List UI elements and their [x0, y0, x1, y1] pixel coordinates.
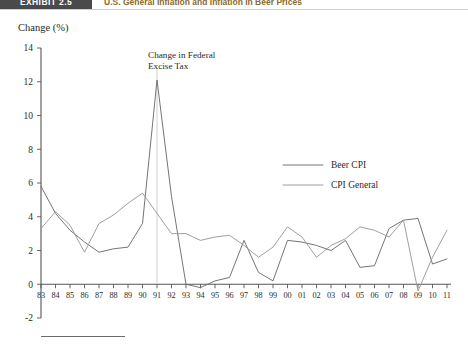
legend-label-cpi-general: CPI General [331, 180, 379, 190]
x-tick-label: 84 [51, 291, 59, 300]
x-tick-label: 90 [138, 291, 146, 300]
x-tick-label: 04 [341, 291, 349, 300]
x-tick-label: 86 [80, 291, 88, 300]
exhibit-number-tag: EXHIBIT 2.5 [0, 0, 92, 9]
chart-container: Change (%) 14121086420-2 838485868788899… [0, 10, 468, 340]
exhibit-title: U.S. General Inflation and Inflation in … [104, 0, 302, 9]
y-tick-label: 0 [28, 280, 33, 290]
series-line-cpi-general [41, 193, 447, 291]
x-tick-label: 01 [298, 291, 306, 300]
y-tick-label: 6 [28, 178, 33, 188]
x-tick-label: 88 [109, 291, 117, 300]
legend-label-beer-cpi: Beer CPI [331, 160, 366, 170]
x-tick-label: 85 [66, 291, 74, 300]
annotation-line-1: Change in Federal [148, 50, 216, 60]
x-tick-label: 00 [283, 291, 291, 300]
x-axis-ticks: 8384858687888990919293949596979899000102… [37, 284, 451, 300]
x-tick-label: 92 [167, 291, 175, 300]
series-line-beer-cpi [41, 80, 447, 288]
y-tick-label: 4 [28, 212, 33, 222]
y-tick-label: 8 [28, 145, 33, 155]
x-tick-label: 02 [312, 291, 320, 300]
x-tick-label: 98 [254, 291, 262, 300]
x-tick-label: 06 [370, 291, 378, 300]
y-tick-label: 10 [24, 111, 34, 121]
x-tick-label: 05 [356, 291, 364, 300]
x-tick-label: 91 [153, 291, 161, 300]
x-tick-label: 94 [196, 291, 204, 300]
series-group [41, 80, 447, 291]
exhibit-header-bar: EXHIBIT 2.5 U.S. General Inflation and I… [0, 0, 468, 9]
x-tick-label: 08 [399, 291, 407, 300]
annotation-line-2: Excise Tax [148, 61, 189, 71]
chart-legend: Beer CPICPI General [283, 160, 379, 190]
footnote-divider [41, 336, 125, 337]
x-tick-label: 96 [225, 291, 233, 300]
x-tick-label: 09 [414, 291, 422, 300]
y-tick-label: 2 [28, 246, 33, 256]
y-tick-label: 14 [24, 43, 34, 53]
x-tick-label: 99 [269, 291, 277, 300]
x-tick-label: 97 [240, 291, 248, 300]
x-tick-label: 07 [385, 291, 393, 300]
y-tick-label: 12 [24, 77, 34, 87]
x-tick-label: 93 [182, 291, 190, 300]
x-tick-label: 87 [95, 291, 103, 300]
x-tick-label: 89 [124, 291, 132, 300]
line-chart-plot: 14121086420-2 83848586878889909192939495… [0, 10, 468, 340]
x-tick-label: 10 [428, 291, 436, 300]
y-tick-label: -2 [25, 313, 33, 323]
x-tick-label: 11 [443, 291, 451, 300]
x-tick-label: 95 [211, 291, 219, 300]
annotation-group: Change in FederalExcise Tax [148, 50, 216, 283]
x-tick-label: 03 [327, 291, 335, 300]
y-axis-ticks: 14121086420-2 [24, 43, 42, 323]
